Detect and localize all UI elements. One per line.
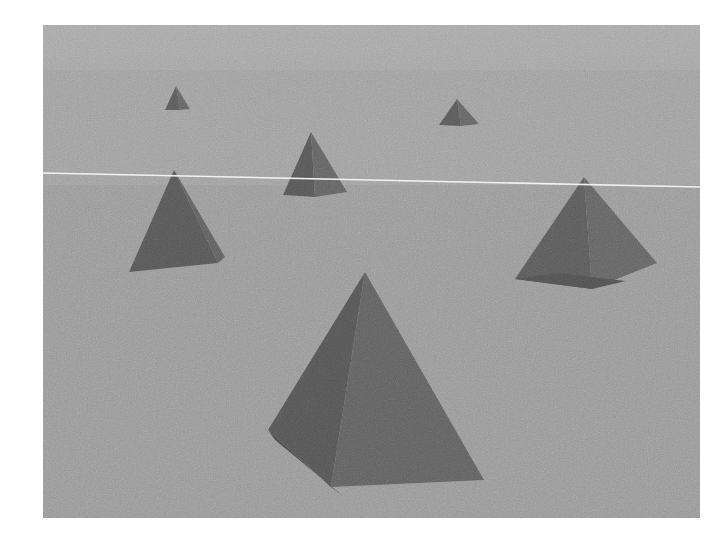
page-margin-left — [0, 0, 43, 534]
pyramid-large-right-face-right — [584, 177, 657, 289]
page-margin-right — [700, 0, 728, 534]
pyramid-medium-center-face-right — [311, 132, 347, 197]
pyramid-largest-center — [268, 272, 484, 496]
page-margin-top — [0, 0, 728, 25]
scene-root — [0, 0, 728, 534]
rendered-image-region — [43, 25, 700, 518]
pyramid-medium-center-face-left — [283, 132, 315, 197]
pyramid-medium-center — [283, 132, 347, 197]
pyramid-large-right — [515, 177, 657, 289]
pyramid-scene-svg — [43, 25, 700, 518]
pyramid-large-left-face-left — [129, 170, 218, 272]
pyramid-small-left — [165, 86, 190, 110]
pyramid-large-left — [129, 170, 225, 272]
pyramid-large-right-face-left — [515, 177, 592, 289]
pyramid-small-right — [439, 99, 479, 126]
horizon-line-glow — [43, 173, 700, 187]
page-margin-bottom — [0, 518, 728, 534]
